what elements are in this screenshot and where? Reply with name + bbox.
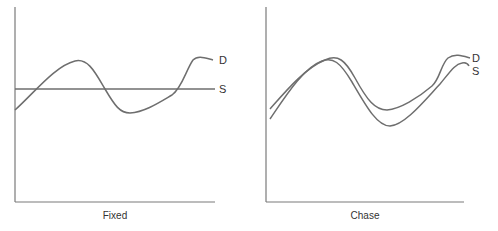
chase-supply-label: S bbox=[472, 65, 479, 77]
chase-demand-label: D bbox=[472, 52, 480, 64]
fixed-caption: Fixed bbox=[103, 210, 127, 221]
chart-canvas: D S Fixed D S Chase bbox=[0, 0, 498, 231]
fixed-demand-label: D bbox=[219, 54, 227, 66]
fixed-chart: D S Fixed bbox=[15, 7, 227, 221]
fixed-supply-label: S bbox=[219, 83, 226, 95]
chase-demand-curve bbox=[270, 55, 470, 110]
fixed-demand-curve bbox=[15, 57, 213, 113]
chase-caption: Chase bbox=[351, 210, 380, 221]
chase-chart: D S Chase bbox=[266, 7, 480, 221]
chase-supply-curve bbox=[270, 60, 469, 126]
